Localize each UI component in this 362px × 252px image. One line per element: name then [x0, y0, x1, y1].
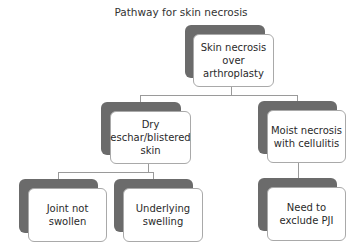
- diagram-title: Pathway for skin necrosis: [0, 6, 362, 18]
- connector-root-down: [231, 87, 232, 95]
- joint-not-swollen-node: Joint not swollen: [28, 188, 107, 242]
- connector-root-horizontal: [140, 95, 298, 96]
- connector-left-down: [148, 164, 149, 172]
- root-node: Skin necrosis over arthroplasty: [193, 34, 274, 87]
- dry-eschar-node: Dry eschar/blistered skin: [110, 111, 191, 164]
- underlying-swelling-node: Underlying swelling: [123, 188, 203, 242]
- moist-necrosis-node: Moist necrosis with cellulitis: [267, 110, 346, 163]
- connector-left-horizontal: [58, 172, 154, 173]
- exclude-pji-node: Need to exclude PJI: [267, 187, 346, 241]
